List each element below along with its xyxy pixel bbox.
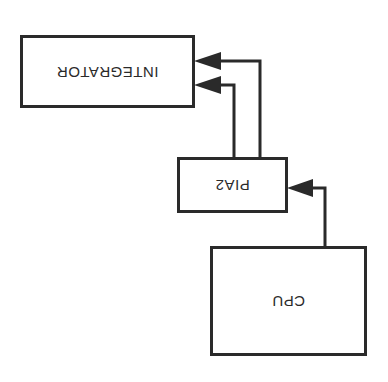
arrowhead-icon bbox=[194, 76, 221, 94]
cpu-box: CPU bbox=[210, 246, 367, 356]
integrator-box: INTEGRATOR bbox=[20, 35, 195, 108]
pia2-label: PIA2 bbox=[180, 177, 285, 194]
block-diagram: INTEGRATOR PIA2 CPU bbox=[0, 0, 388, 382]
edge-pia2-integrator-2 bbox=[221, 85, 234, 158]
arrowhead-icon bbox=[194, 52, 221, 70]
edge-pia2-integrator-1 bbox=[221, 61, 260, 158]
edge-cpu-pia2 bbox=[313, 188, 325, 247]
integrator-label: INTEGRATOR bbox=[23, 63, 192, 80]
arrowhead-icon bbox=[287, 179, 313, 197]
pia2-box: PIA2 bbox=[177, 157, 288, 213]
cpu-label: CPU bbox=[213, 293, 364, 310]
